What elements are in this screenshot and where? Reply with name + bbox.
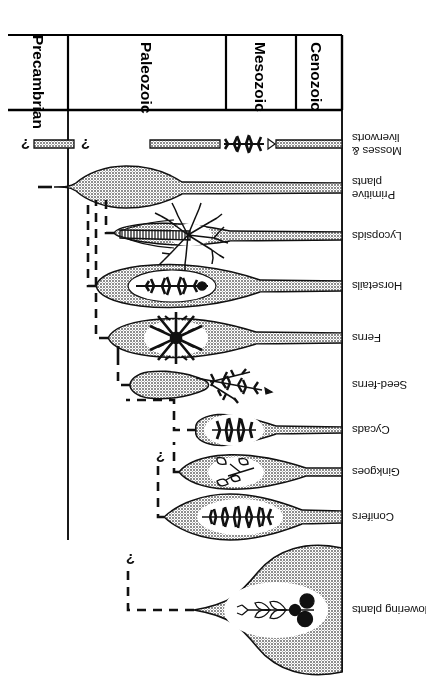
group-label-text: Horsetails — [352, 280, 402, 292]
connector-seed-ferns — [118, 360, 130, 385]
connector-flowering-plants — [128, 564, 194, 610]
range-band-flowering-plants — [194, 545, 342, 674]
connector-horsetails — [88, 198, 96, 286]
group-label-seed-ferns: Seed-ferns — [352, 379, 426, 391]
era-label-cenozoic: Cenozoic — [307, 42, 325, 111]
uncertainty-mark-gymnosperms: ? — [156, 449, 165, 466]
range-band-ferns — [108, 312, 342, 364]
group-label-ferns: Ferns — [352, 332, 426, 344]
group-label-conifers: Conifers — [352, 511, 426, 523]
uncertainty-mark-mosses-right: ? — [21, 136, 30, 153]
group-label-text: Flowering plants — [352, 604, 426, 616]
group-label-primitive-plants: Primitive plants — [352, 176, 426, 201]
solid-tick-marks — [38, 187, 118, 360]
group-label-mosses-liverworts: Mosses & liverworts — [352, 132, 426, 157]
connector-conifers — [158, 462, 164, 517]
uncertainty-mark-flowering-plants: ? — [126, 551, 135, 568]
group-label-ginkgoes: Ginkgoes — [352, 466, 426, 478]
group-label-text-line1: Mosses & — [352, 145, 426, 158]
group-label-text: Seed-ferns — [352, 379, 407, 391]
range-band-seed-ferns — [130, 369, 272, 403]
chart-canvas — [0, 0, 426, 690]
figure-root: Flowering plants Conifers Ginkgoes Cycad… — [0, 0, 426, 690]
group-label-text-line2: plants — [352, 176, 426, 189]
group-label-text-line2: liverworts — [352, 132, 426, 145]
phylogeny-connectors — [88, 198, 196, 610]
range-band-ginkgoes — [179, 455, 342, 489]
group-label-text: Conifers — [352, 511, 394, 523]
connector-ginkgoes — [174, 442, 179, 472]
era-label-paleozoic: Paleozoic — [137, 42, 155, 114]
group-label-text: Ferns — [352, 332, 381, 344]
group-label-cycads: Cycads — [352, 424, 426, 436]
era-label-precambrian: Precambrian — [29, 35, 47, 129]
connector-cycads — [126, 400, 196, 430]
group-label-text: Ginkgoes — [352, 466, 400, 478]
range-band-lycopsids — [114, 203, 342, 270]
group-label-lycopsids: Lycopsids — [352, 230, 426, 242]
lycopsid-trunk-icon — [120, 230, 190, 240]
group-label-horsetails: Horsetails — [352, 280, 426, 292]
uncertainty-mark-mosses-left: ? — [81, 136, 90, 153]
moss-icon — [224, 135, 275, 153]
range-band-cycads — [196, 414, 342, 446]
range-band-conifers — [164, 494, 342, 540]
group-label-flowering-plants: Flowering plants — [352, 604, 426, 616]
range-band-horsetails — [96, 265, 342, 308]
group-label-text: Cycads — [352, 424, 390, 436]
era-label-mesozoic: Mesozoic — [251, 42, 269, 112]
range-chart-figure: Flowering plants Conifers Ginkgoes Cycad… — [0, 0, 426, 690]
group-label-text-line1: Primitive — [352, 189, 426, 202]
group-label-text: Lycopsids — [352, 230, 402, 242]
